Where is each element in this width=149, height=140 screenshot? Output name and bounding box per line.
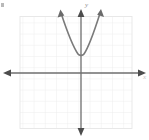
x-axis-label: x [143,74,146,81]
curve-arrow-up-right-icon [97,9,104,17]
coordinate-plane [0,0,149,140]
arrow-left-icon [3,70,11,77]
arrow-down-icon [78,128,85,136]
y-axis-label: y [85,2,88,9]
graph-figure: y x [0,0,149,140]
arrow-up-icon [78,9,85,17]
